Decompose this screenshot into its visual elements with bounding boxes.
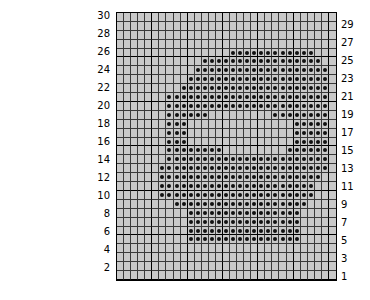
- grid-cell-filled[interactable]: [166, 173, 173, 182]
- grid-cell[interactable]: [145, 138, 152, 147]
- grid-cell-filled[interactable]: [166, 155, 173, 164]
- grid-cell[interactable]: [131, 235, 138, 244]
- grid-cell-filled[interactable]: [216, 191, 223, 200]
- grid-cell[interactable]: [258, 138, 265, 147]
- grid-cell[interactable]: [244, 129, 251, 138]
- grid-cell[interactable]: [131, 49, 138, 58]
- grid-cell[interactable]: [138, 182, 145, 191]
- grid-cell-filled[interactable]: [216, 75, 223, 84]
- grid-cell-filled[interactable]: [237, 93, 244, 102]
- grid-cell-filled[interactable]: [188, 84, 195, 93]
- grid-cell-filled[interactable]: [258, 102, 265, 111]
- grid-cell[interactable]: [124, 209, 131, 218]
- grid-cell-filled[interactable]: [216, 200, 223, 209]
- grid-cell-filled[interactable]: [315, 120, 322, 129]
- grid-cell-filled[interactable]: [258, 209, 265, 218]
- grid-cell-filled[interactable]: [308, 173, 315, 182]
- grid-cell-filled[interactable]: [188, 75, 195, 84]
- grid-cell-filled[interactable]: [195, 182, 202, 191]
- grid-cell[interactable]: [138, 271, 145, 280]
- grid-cell[interactable]: [166, 22, 173, 31]
- grid-cell[interactable]: [251, 22, 258, 31]
- grid-cell-filled[interactable]: [230, 235, 237, 244]
- grid-cell[interactable]: [216, 40, 223, 49]
- grid-cell[interactable]: [124, 22, 131, 31]
- grid-cell[interactable]: [145, 155, 152, 164]
- grid-cell[interactable]: [159, 218, 166, 227]
- grid-cell-filled[interactable]: [287, 191, 294, 200]
- grid-cell[interactable]: [223, 22, 230, 31]
- grid-cell[interactable]: [117, 164, 124, 173]
- grid-cell-filled[interactable]: [230, 164, 237, 173]
- grid-cell[interactable]: [244, 111, 251, 120]
- grid-cell[interactable]: [265, 138, 272, 147]
- grid-cell[interactable]: [265, 271, 272, 280]
- grid-cell[interactable]: [152, 111, 159, 120]
- grid-cell[interactable]: [301, 271, 308, 280]
- grid-cell-filled[interactable]: [223, 173, 230, 182]
- grid-cell[interactable]: [174, 244, 181, 253]
- grid-cell[interactable]: [322, 49, 329, 58]
- grid-cell[interactable]: [315, 200, 322, 209]
- grid-cell[interactable]: [181, 227, 188, 236]
- grid-cell[interactable]: [117, 102, 124, 111]
- grid-cell[interactable]: [138, 218, 145, 227]
- grid-cell[interactable]: [166, 31, 173, 40]
- grid-cell[interactable]: [209, 13, 216, 22]
- grid-cell-filled[interactable]: [244, 75, 251, 84]
- grid-cell[interactable]: [258, 146, 265, 155]
- grid-cell-filled[interactable]: [181, 155, 188, 164]
- grid-cell[interactable]: [287, 13, 294, 22]
- grid-cell[interactable]: [329, 253, 336, 262]
- grid-cell[interactable]: [124, 13, 131, 22]
- grid-cell[interactable]: [131, 120, 138, 129]
- grid-cell-filled[interactable]: [181, 182, 188, 191]
- grid-cell-filled[interactable]: [230, 57, 237, 66]
- grid-cell[interactable]: [329, 84, 336, 93]
- grid-cell-filled[interactable]: [294, 138, 301, 147]
- grid-cell-filled[interactable]: [251, 191, 258, 200]
- grid-cell[interactable]: [209, 138, 216, 147]
- grid-cell[interactable]: [117, 66, 124, 75]
- grid-cell-filled[interactable]: [272, 182, 279, 191]
- grid-cell[interactable]: [166, 227, 173, 236]
- grid-cell[interactable]: [329, 155, 336, 164]
- grid-cell-filled[interactable]: [308, 129, 315, 138]
- grid-cell-filled[interactable]: [287, 93, 294, 102]
- grid-cell-filled[interactable]: [258, 75, 265, 84]
- grid-cell[interactable]: [195, 138, 202, 147]
- grid-cell[interactable]: [124, 111, 131, 120]
- grid-cell[interactable]: [216, 271, 223, 280]
- grid-cell[interactable]: [308, 22, 315, 31]
- grid-cell-filled[interactable]: [237, 84, 244, 93]
- grid-cell-filled[interactable]: [195, 84, 202, 93]
- grid-cell-filled[interactable]: [174, 173, 181, 182]
- grid-cell[interactable]: [152, 102, 159, 111]
- grid-cell-filled[interactable]: [287, 227, 294, 236]
- grid-cell[interactable]: [131, 84, 138, 93]
- grid-cell-filled[interactable]: [258, 49, 265, 58]
- grid-cell[interactable]: [138, 173, 145, 182]
- grid-cell-filled[interactable]: [195, 93, 202, 102]
- grid-cell[interactable]: [174, 31, 181, 40]
- grid-cell[interactable]: [131, 191, 138, 200]
- grid-cell-filled[interactable]: [279, 49, 286, 58]
- grid-cell[interactable]: [237, 253, 244, 262]
- grid-cell-filled[interactable]: [181, 138, 188, 147]
- grid-cell[interactable]: [159, 209, 166, 218]
- grid-cell[interactable]: [145, 200, 152, 209]
- grid-cell[interactable]: [166, 253, 173, 262]
- grid-cell-filled[interactable]: [322, 155, 329, 164]
- grid-cell[interactable]: [315, 22, 322, 31]
- grid-cell[interactable]: [145, 244, 152, 253]
- grid-cell[interactable]: [329, 271, 336, 280]
- grid-cell-filled[interactable]: [315, 84, 322, 93]
- grid-cell-filled[interactable]: [287, 75, 294, 84]
- grid-cell-filled[interactable]: [209, 57, 216, 66]
- grid-cell[interactable]: [329, 129, 336, 138]
- grid-cell[interactable]: [131, 173, 138, 182]
- grid-cell-filled[interactable]: [279, 93, 286, 102]
- grid-cell-filled[interactable]: [216, 146, 223, 155]
- grid-cell[interactable]: [131, 22, 138, 31]
- grid-cell[interactable]: [152, 66, 159, 75]
